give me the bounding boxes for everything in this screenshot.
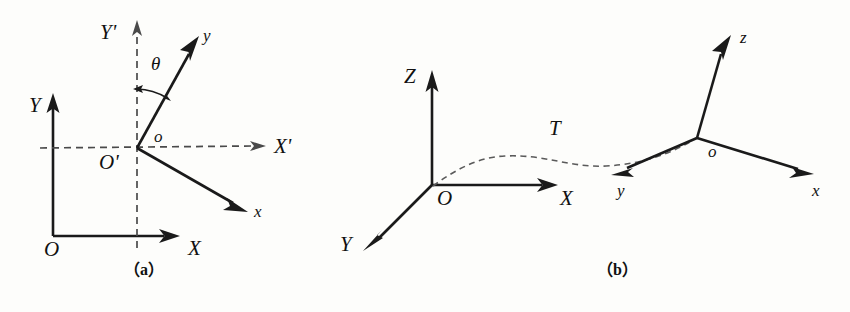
panel-a-global-x-axis xyxy=(53,229,180,243)
panel-a-label-local-y: y xyxy=(203,27,211,44)
panel-b-local-y-axis xyxy=(611,138,697,177)
panel-b-label-local-z: z xyxy=(740,29,747,46)
panel-b-group xyxy=(363,35,814,251)
panel-a-label-translated-y: Y' xyxy=(100,22,116,43)
panel-b-label-global-origin: O xyxy=(437,188,452,209)
panel-b-label-local-y: y xyxy=(617,182,625,199)
panel-a-label-global-origin: O xyxy=(44,239,59,260)
panel-a-label-global-x: X xyxy=(188,238,201,259)
figure-container: Y O X Y' X' O' o y x θ （a） Z O X Y T z o… xyxy=(0,0,850,312)
panel-a-label-translated-x: X' xyxy=(274,136,291,157)
panel-b-label-local-origin: o xyxy=(708,143,717,160)
panel-a-translated-y-axis xyxy=(132,20,142,248)
panel-a-theta-arc xyxy=(133,85,171,101)
panel-a-label-global-y: Y xyxy=(29,95,41,116)
panel-a-label-local-origin: O' xyxy=(99,152,119,173)
panel-b-label-transform: T xyxy=(549,118,561,139)
panel-b-caption: （b） xyxy=(597,262,638,278)
panel-a-local-y-axis xyxy=(137,36,199,148)
panel-a-label-local-x: x xyxy=(254,203,262,220)
panel-b-local-z-axis xyxy=(697,35,731,138)
panel-b-transform-curve xyxy=(433,142,690,186)
panel-a-label-local-origin-alt: o xyxy=(154,128,163,145)
panel-b-label-local-x: x xyxy=(812,182,820,199)
panel-a-global-y-axis xyxy=(47,93,60,236)
panel-b-label-global-y: Y xyxy=(340,234,352,255)
panel-b-global-z-axis xyxy=(426,70,439,185)
panel-b-global-y-axis xyxy=(363,185,432,251)
panel-b-label-global-z: Z xyxy=(404,66,416,87)
panel-a-caption: （a） xyxy=(124,262,164,278)
panel-b-label-global-x: X xyxy=(560,188,573,209)
panel-a-local-x-axis xyxy=(137,148,248,212)
panel-a-label-rotation-angle: θ xyxy=(151,54,160,73)
panel-a-translated-x-axis xyxy=(40,141,266,151)
